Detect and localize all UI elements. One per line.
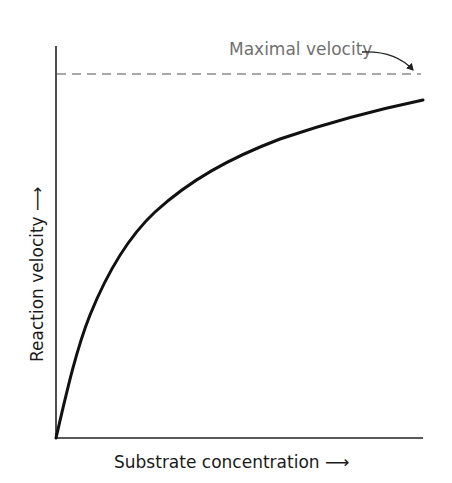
chart-canvas: Maximal velocity Substrate concentration… <box>0 0 452 483</box>
x-axis-label: Substrate concentration ⟶ <box>114 452 349 472</box>
y-axis-label: Reaction velocity ⟶ <box>27 187 47 362</box>
vmax-label: Maximal velocity <box>229 39 372 59</box>
saturation-curve <box>56 100 423 438</box>
